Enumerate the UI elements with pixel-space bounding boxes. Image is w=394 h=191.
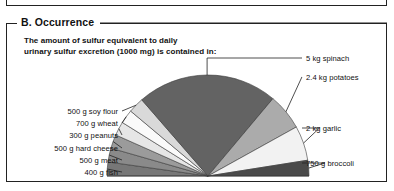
leader-line xyxy=(207,58,302,75)
slice-label: 500 g meat xyxy=(80,156,119,165)
slice-label: 500 g soy flour xyxy=(67,107,118,116)
intro-line-2: urinary sulfur excretion (1000 mg) is co… xyxy=(24,47,216,58)
figure-panel-b: B. Occurrence The amount of sulfur equiv… xyxy=(0,0,394,191)
pie-slices-group xyxy=(107,75,309,176)
slice-label: 400 g fish xyxy=(85,168,118,177)
slice-label: 700 g wheat xyxy=(76,119,118,128)
panel-title: B. Occurrence xyxy=(17,16,100,29)
slice-label: 2.4 kg potatoes xyxy=(306,73,359,82)
slice-label: 2 kg garlic xyxy=(306,124,341,133)
intro-line-1: The amount of sulfur equivalent to daily xyxy=(24,36,216,47)
slice-label: 750 g broccoli xyxy=(306,159,354,168)
slice-label: 300 g peanuts xyxy=(69,131,118,140)
slice-label: 5 kg spinach xyxy=(306,54,349,63)
slice-label: 500 g hard cheese xyxy=(54,144,118,153)
panel-intro-text: The amount of sulfur equivalent to daily… xyxy=(24,36,216,57)
leader-line xyxy=(286,77,302,112)
